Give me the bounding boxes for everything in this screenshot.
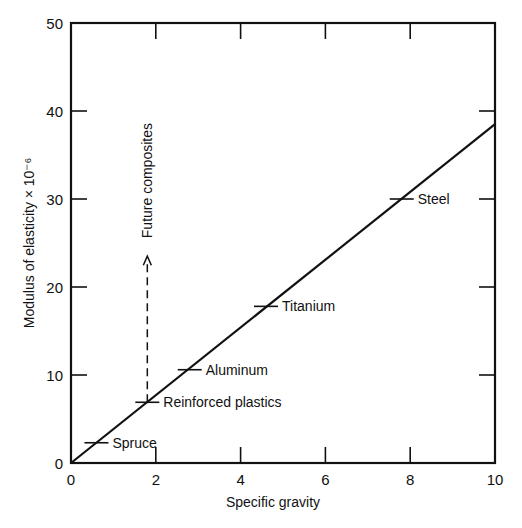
y-tick-label: 30 (46, 191, 63, 208)
chart: 024681001020304050Specific gravityModulu… (0, 0, 522, 528)
point-label: Spruce (112, 435, 157, 451)
x-tick-label: 0 (67, 471, 75, 488)
x-tick-label: 10 (487, 471, 504, 488)
point-label: Reinforced plastics (163, 394, 281, 410)
x-tick-label: 4 (236, 471, 244, 488)
annotation-label: Future composites (139, 123, 155, 238)
x-tick-label: 2 (152, 471, 160, 488)
y-tick-label: 10 (46, 367, 63, 384)
plot-frame (71, 23, 495, 463)
y-tick-label: 40 (46, 103, 63, 120)
point-label: Aluminum (206, 362, 268, 378)
y-tick-label: 0 (55, 455, 63, 472)
y-tick-label: 50 (46, 15, 63, 32)
x-tick-label: 8 (406, 471, 414, 488)
x-tick-label: 6 (321, 471, 329, 488)
point-label: Steel (418, 191, 450, 207)
arrow-head-icon (143, 256, 151, 265)
point-label: Titanium (282, 298, 335, 314)
y-axis-title: Modulus of elasticity × 10⁻⁶ (21, 158, 37, 328)
x-axis-title: Specific gravity (226, 494, 320, 510)
y-tick-label: 20 (46, 279, 63, 296)
series-line (71, 124, 495, 463)
